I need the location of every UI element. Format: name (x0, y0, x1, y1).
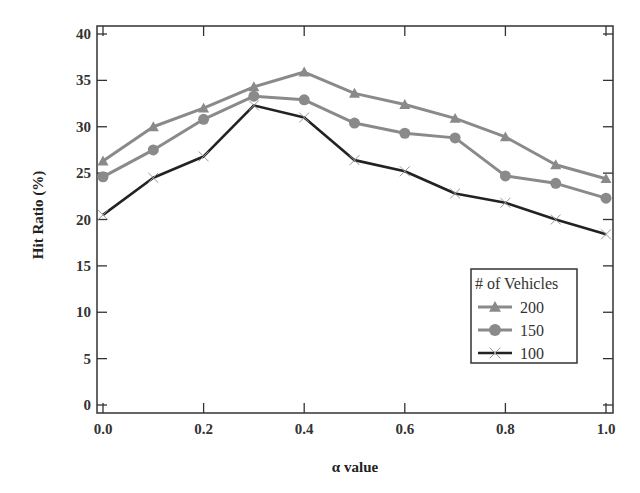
triangle-marker (299, 67, 310, 77)
y-tick-label: 30 (76, 119, 91, 135)
circle-marker (148, 144, 159, 155)
y-axis-title: Hit Ratio (%) (30, 171, 47, 259)
y-tick-label: 25 (76, 165, 91, 181)
series-150 (98, 91, 612, 204)
circle-marker (98, 171, 109, 182)
circle-marker (399, 128, 410, 139)
series-line (103, 96, 606, 198)
circle-marker (601, 193, 612, 204)
circle-marker (450, 132, 461, 143)
y-tick-label: 15 (76, 258, 91, 274)
x-tick-label: 0.2 (194, 421, 213, 437)
circle-marker (349, 118, 360, 129)
legend-label: 100 (520, 345, 544, 362)
legend: # of Vehicles 200150100 (471, 269, 577, 363)
circle-marker (550, 178, 561, 189)
x-axis: 0.00.20.40.60.81.0 (94, 26, 616, 437)
x-tick-label: 0.8 (496, 421, 515, 437)
y-tick-label: 0 (84, 397, 92, 413)
series-layer (98, 67, 612, 240)
x-tick-label: 0.4 (295, 421, 314, 437)
circle-marker (299, 94, 310, 105)
circle-marker (248, 91, 259, 102)
y-tick-label: 20 (76, 212, 91, 228)
circle-marker (198, 114, 209, 125)
x-tick-label: 0.0 (94, 421, 113, 437)
circle-marker (500, 170, 511, 181)
legend-title: # of Vehicles (475, 275, 558, 292)
x-tick-label: 0.6 (395, 421, 414, 437)
y-tick-label: 40 (76, 26, 91, 42)
y-tick-label: 5 (84, 351, 92, 367)
x-tick-label: 1.0 (597, 421, 616, 437)
legend-entries: 200150100 (478, 299, 544, 362)
y-tick-label: 10 (76, 304, 91, 320)
y-tick-label: 35 (76, 72, 91, 88)
legend-label: 150 (520, 322, 544, 339)
circle-marker (489, 324, 501, 336)
legend-label: 200 (520, 299, 544, 316)
x-axis-title: α value (332, 459, 379, 475)
line-chart: 0510152025303540 0.00.20.40.60.81.0 α va… (0, 0, 640, 493)
